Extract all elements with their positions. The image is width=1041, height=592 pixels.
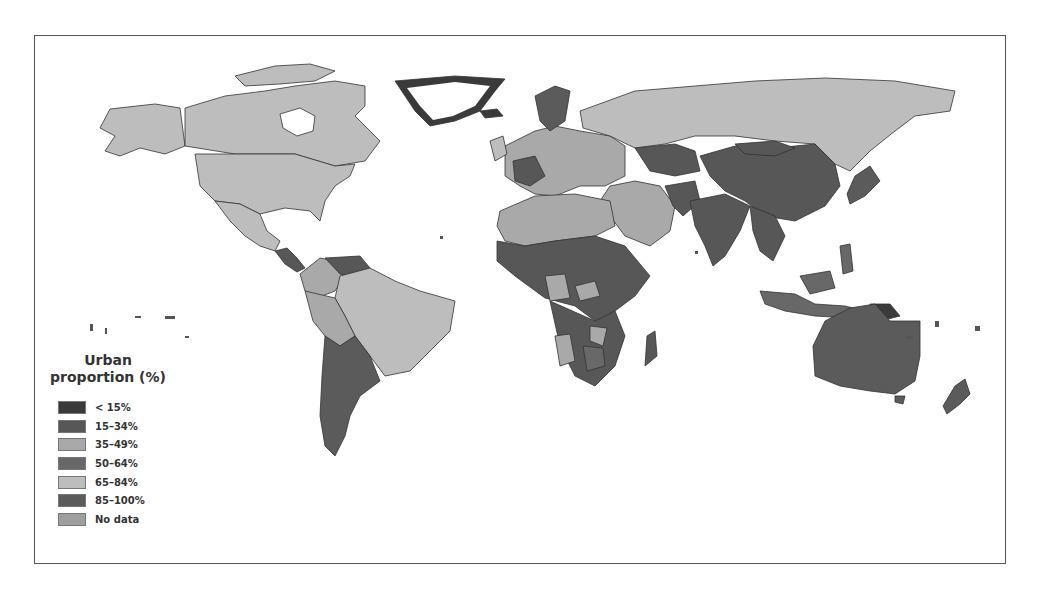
legend-swatch bbox=[58, 513, 86, 526]
legend-swatch bbox=[58, 401, 86, 414]
legend-title: Urban proportion (%) bbox=[47, 352, 169, 386]
legend-swatch bbox=[58, 494, 86, 507]
legend-item: < 15% bbox=[58, 398, 197, 417]
legend-title-line1: Urban bbox=[47, 352, 169, 369]
legend-label: No data bbox=[95, 514, 139, 525]
legend-label: 15–34% bbox=[95, 421, 138, 432]
legend-item: 65–84% bbox=[58, 473, 197, 492]
region-australia bbox=[813, 304, 920, 394]
legend-label: 50–64% bbox=[95, 458, 138, 469]
region-india bbox=[690, 194, 750, 266]
legend-label: 35–49% bbox=[95, 439, 138, 450]
legend-label: 65–84% bbox=[95, 477, 138, 488]
legend-item: No data bbox=[58, 510, 197, 529]
legend-swatch bbox=[58, 420, 86, 433]
legend-items: < 15% 15–34% 35–49% 50–64% 65–84% 85–100… bbox=[58, 398, 197, 529]
legend-title-line2: proportion (%) bbox=[47, 369, 169, 386]
legend-swatch bbox=[58, 476, 86, 489]
region-africa-sahel bbox=[497, 236, 650, 321]
legend-item: 15–34% bbox=[58, 417, 197, 436]
legend-item: 35–49% bbox=[58, 435, 197, 454]
legend-item: 85–100% bbox=[58, 491, 197, 510]
region-alaska bbox=[100, 104, 185, 156]
legend-label: < 15% bbox=[95, 402, 131, 413]
map-frame: Urban proportion (%) < 15% 15–34% 35–49%… bbox=[34, 35, 1006, 564]
legend-label: 85–100% bbox=[95, 495, 145, 506]
legend-swatch bbox=[58, 438, 86, 451]
map-legend: Urban proportion (%) < 15% 15–34% 35–49%… bbox=[47, 352, 197, 529]
legend-swatch bbox=[58, 457, 86, 470]
legend-item: 50–64% bbox=[58, 454, 197, 473]
